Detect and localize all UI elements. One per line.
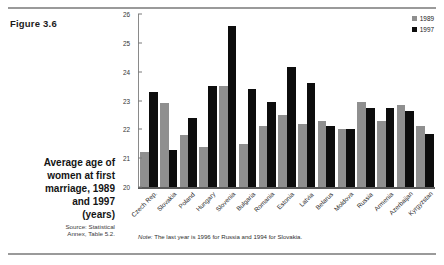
bar-1997 bbox=[386, 108, 395, 187]
chart-note: Note: The last year is 1996 for Russia a… bbox=[138, 233, 438, 240]
bar-group bbox=[415, 14, 435, 187]
figure-title-line-4: and 1997 bbox=[10, 195, 115, 208]
chart-plot-area: 19891997 20212223242526 Czech Rep.Slovak… bbox=[118, 14, 436, 252]
bar-group bbox=[178, 14, 198, 187]
bar-1997 bbox=[267, 102, 276, 187]
y-tick-mark bbox=[138, 71, 142, 72]
y-tick-label-22: 22 bbox=[123, 126, 130, 133]
y-tick-mark bbox=[138, 14, 142, 15]
y-tick-mark bbox=[138, 100, 142, 101]
figure-source: Source: Statistical Annex, Table 5.2. bbox=[10, 223, 115, 238]
bar-1997 bbox=[307, 83, 316, 187]
figure-units: (years) bbox=[10, 208, 115, 221]
bar-1989 bbox=[259, 126, 268, 187]
bar-1997 bbox=[405, 111, 414, 187]
y-tick-mark bbox=[138, 129, 142, 130]
bar-1989 bbox=[416, 126, 425, 187]
figure-caption-column: Figure 3.6 Average age of women at first… bbox=[10, 18, 115, 246]
bar-1989 bbox=[278, 115, 287, 187]
bar-1989 bbox=[298, 124, 307, 187]
bar-group bbox=[218, 14, 238, 187]
top-divider-rule bbox=[8, 7, 436, 9]
bar-group bbox=[376, 14, 396, 187]
bar-1997 bbox=[169, 150, 178, 187]
bar-1997 bbox=[287, 67, 296, 187]
bar-group bbox=[159, 14, 179, 187]
bar-1989 bbox=[199, 147, 208, 187]
bar-group bbox=[396, 14, 416, 187]
bar-1989 bbox=[180, 135, 189, 187]
bar-group bbox=[238, 14, 258, 187]
x-tick-label: Estonia bbox=[275, 191, 295, 211]
figure-caption-body: Average age of women at first marriage, … bbox=[10, 156, 115, 238]
figure-title-line-3: marriage, 1989 bbox=[10, 182, 115, 195]
y-tick-mark bbox=[138, 42, 142, 43]
bar-group bbox=[336, 14, 356, 187]
bar-1989 bbox=[239, 144, 248, 187]
bottom-divider-rule bbox=[8, 253, 436, 255]
bar-1989 bbox=[219, 86, 228, 187]
bar-1989 bbox=[377, 121, 386, 187]
x-tick-label: Moldova bbox=[333, 190, 355, 212]
bar-groups bbox=[139, 14, 435, 187]
bar-1997 bbox=[208, 86, 217, 187]
bar-group bbox=[356, 14, 376, 187]
bar-1997 bbox=[149, 92, 158, 187]
y-tick-label-21: 21 bbox=[123, 155, 130, 162]
y-tick-label-23: 23 bbox=[123, 97, 130, 104]
x-tick-label: Belarus bbox=[314, 191, 334, 211]
bar-group bbox=[317, 14, 337, 187]
bar-group bbox=[257, 14, 277, 187]
bar-1989 bbox=[397, 105, 406, 187]
bar-1997 bbox=[346, 129, 355, 187]
bar-1997 bbox=[188, 118, 197, 187]
x-tick-label: Slovenia bbox=[214, 190, 236, 212]
figure-title-line-1: Average age of bbox=[10, 156, 115, 169]
bar-1989 bbox=[318, 121, 327, 187]
x-tick-label: Czech Rep. bbox=[129, 190, 158, 219]
x-tick-label: Hungary bbox=[194, 190, 216, 212]
y-tick-label-26: 26 bbox=[123, 11, 130, 18]
y-axis-tick-labels: 20212223242526 bbox=[118, 14, 134, 187]
figure-source-line-1: Source: Statistical bbox=[10, 223, 115, 231]
bar-1997 bbox=[248, 89, 257, 187]
figure-source-line-2: Annex, Table 5.2. bbox=[10, 230, 115, 238]
bar-1997 bbox=[228, 26, 237, 187]
figure-title-line-2: women at first bbox=[10, 169, 115, 182]
bar-1989 bbox=[160, 103, 169, 187]
figure-number: Figure 3.6 bbox=[10, 18, 115, 29]
x-tick-label: Slovakia bbox=[155, 190, 177, 212]
y-tick-label-25: 25 bbox=[123, 39, 130, 46]
bar-group bbox=[297, 14, 317, 187]
y-tick-label-24: 24 bbox=[123, 68, 130, 75]
bar-1997 bbox=[326, 126, 335, 187]
x-axis-line bbox=[138, 187, 435, 189]
x-tick-label: Latvia bbox=[298, 191, 315, 208]
figure-container: Figure 3.6 Average age of women at first… bbox=[0, 0, 444, 265]
y-tick-label-20: 20 bbox=[123, 184, 130, 191]
bar-group bbox=[198, 14, 218, 187]
bar-1989 bbox=[338, 129, 347, 187]
y-tick-mark bbox=[138, 187, 142, 188]
bar-group bbox=[277, 14, 297, 187]
bar-1997 bbox=[366, 108, 375, 187]
chart-note-text: The last year is 1996 for Russia and 199… bbox=[154, 233, 302, 240]
bar-1989 bbox=[357, 102, 366, 187]
y-tick-mark bbox=[138, 158, 142, 159]
bar-1997 bbox=[425, 134, 434, 187]
chart-axes: 20212223242526 Czech Rep.SlovakiaPolandH… bbox=[118, 14, 436, 252]
chart-note-lead: Note: bbox=[138, 233, 153, 240]
figure-title: Average age of women at first marriage, … bbox=[10, 156, 115, 208]
